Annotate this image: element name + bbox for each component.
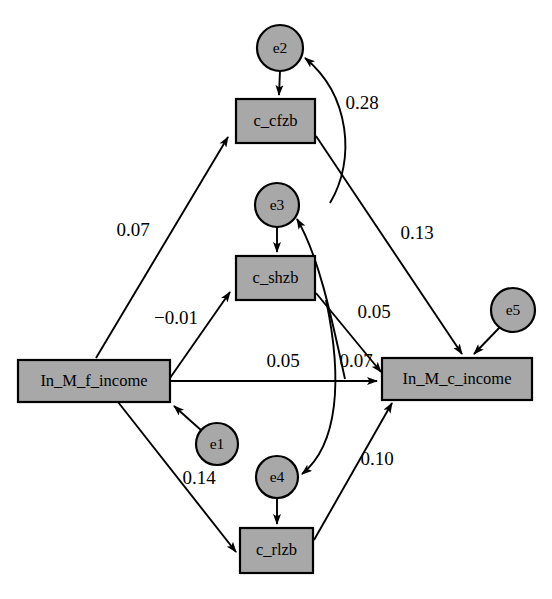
coef-curve-to-e2: 0.28 [345,92,378,113]
edge-f-income-to-c-shzb [170,292,230,378]
coef-c-rlzb-to-c-income: 0.10 [360,448,393,469]
path-diagram-container: c_cfzb c_shzb c_rlzb In_M_f_income In_M_… [0,0,552,599]
coef-c-shzb-to-c-income: 0.05 [357,301,390,322]
coef-f-income-to-c-cfzb: 0.07 [116,219,149,240]
node-c-cfzb[interactable]: c_cfzb [236,99,315,143]
edge-e5-to-c-income [474,327,500,354]
node-e4[interactable]: e4 [256,456,298,498]
node-e4-label: e4 [270,468,285,485]
node-e5[interactable]: e5 [491,288,535,332]
node-c-cfzb-label: c_cfzb [254,111,298,130]
coef-c-cfzb-to-c-income: 0.13 [400,222,433,243]
node-e1-label: e1 [210,435,225,452]
node-c-rlzb-label: c_rlzb [256,540,297,559]
node-f-income-label: In_M_f_income [40,371,147,390]
node-e1[interactable]: e1 [196,423,238,465]
edge-e2-to-c-cfzb [279,71,280,95]
coef-f-income-to-c-rlzb: 0.14 [182,467,216,488]
sem-path-diagram: c_cfzb c_shzb c_rlzb In_M_f_income In_M_… [0,0,552,599]
edge-c-rlzb-to-c-income [314,403,392,540]
node-c-income[interactable]: In_M_c_income [382,358,532,400]
node-e3[interactable]: e3 [255,183,299,227]
coef-f-income-to-c-income: 0.05 [266,350,299,371]
node-f-income[interactable]: In_M_f_income [18,360,170,402]
node-e3-label: e3 [270,196,285,213]
node-c-rlzb[interactable]: c_rlzb [240,528,313,573]
edge-e1-to-f-income [174,406,202,431]
node-e5-label: e5 [506,301,521,318]
node-c-shzb[interactable]: c_shzb [236,256,315,300]
edge-curve-to-e4 [302,300,335,474]
node-c-shzb-label: c_shzb [253,268,299,287]
coef-f-income-to-c-shzb: −0.01 [154,307,198,328]
node-e2-label: e2 [273,39,288,56]
node-e2[interactable]: e2 [257,25,303,71]
coef-curve-to-e3: 0.07 [339,350,372,371]
node-c-income-label: In_M_c_income [402,369,511,388]
